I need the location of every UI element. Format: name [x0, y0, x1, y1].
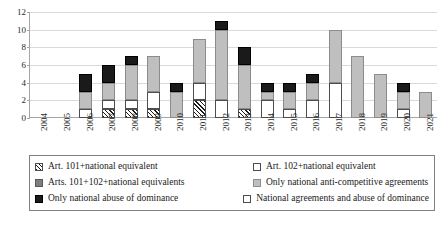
- stacked-bar[interactable]: [193, 39, 206, 118]
- bar-segment-national_abuse[interactable]: [102, 65, 115, 83]
- x-tick-label: 2019: [380, 113, 389, 131]
- bar-segment-national_abuse[interactable]: [79, 74, 92, 92]
- bar-segment-art102[interactable]: [102, 100, 115, 109]
- legend-swatch-icon: [253, 179, 261, 187]
- bar-segment-national_abuse[interactable]: [283, 83, 296, 92]
- bar-segment-national_agreements[interactable]: [215, 30, 228, 101]
- bar-segment-national_agreements[interactable]: [79, 92, 92, 110]
- bar-segment-art102[interactable]: [147, 92, 160, 110]
- bar-slot: [414, 12, 437, 118]
- x-tick-label: 2010: [176, 113, 185, 131]
- bar-segment-national_agreements[interactable]: [261, 92, 274, 101]
- y-tick-label: 2: [22, 96, 27, 105]
- x-tick-label: 2012: [222, 113, 231, 131]
- bar-segment-national_agreements[interactable]: [351, 56, 364, 118]
- x-tick-slot: 2017: [324, 119, 347, 150]
- x-tick-slot: 2011: [188, 119, 211, 150]
- legend-swatch-icon: [35, 163, 43, 171]
- legend-swatch-icon: [243, 195, 251, 203]
- bar-series-container: [29, 12, 437, 118]
- bar-segment-national_agreements[interactable]: [125, 65, 138, 100]
- y-tick-label: 0: [22, 114, 27, 123]
- x-tick-label: 2016: [312, 113, 321, 131]
- x-tick-label: 2007: [108, 113, 117, 131]
- bar-segment-art102[interactable]: [193, 83, 206, 101]
- bar-segment-national_abuse[interactable]: [261, 83, 274, 92]
- bar-segment-national_agreements[interactable]: [306, 83, 319, 101]
- legend-item-art101[interactable]: Art. 101+national equivalent: [35, 162, 253, 172]
- stacked-bar[interactable]: [215, 21, 228, 118]
- stacked-bar[interactable]: [102, 65, 115, 118]
- bar-slot: [29, 12, 52, 118]
- bar-segment-national_abuse[interactable]: [306, 74, 319, 83]
- bar-slot: [142, 12, 165, 118]
- legend-swatch-icon: [35, 195, 43, 203]
- legend-item-arts101_102[interactable]: Arts. 101+102+national equivalents: [35, 178, 253, 188]
- legend-row: Art. 101+national equivalentArt. 102+nat…: [35, 159, 429, 175]
- x-tick-slot: 2008: [120, 119, 143, 150]
- x-tick-label: 2014: [267, 113, 276, 131]
- chart-legend: Art. 101+national equivalentArt. 102+nat…: [29, 155, 435, 211]
- y-axis: 024681012: [4, 12, 26, 118]
- legend-label: Only national abuse of dominance: [48, 194, 178, 204]
- legend-swatch-icon: [35, 179, 43, 187]
- y-tick-label: 8: [22, 43, 27, 52]
- bar-slot: [278, 12, 301, 118]
- bar-slot: [301, 12, 324, 118]
- legend-item-national_agreements[interactable]: Only national anti-competitive agreement…: [253, 178, 429, 188]
- bar-slot: [210, 12, 233, 118]
- bar-slot: [97, 12, 120, 118]
- stacked-bar[interactable]: [79, 74, 92, 118]
- bar-segment-national_abuse[interactable]: [170, 83, 183, 92]
- bar-slot: [346, 12, 369, 118]
- legend-label: Art. 101+national equivalent: [48, 162, 158, 172]
- bar-segment-national_agreements[interactable]: [147, 56, 160, 91]
- x-tick-slot: 2020: [392, 119, 415, 150]
- x-tick-slot: 2005: [52, 119, 75, 150]
- bar-slot: [52, 12, 75, 118]
- bar-slot: [120, 12, 143, 118]
- x-tick-slot: 2016: [301, 119, 324, 150]
- stacked-bar[interactable]: [351, 56, 364, 118]
- x-tick-label: 2006: [86, 113, 95, 131]
- legend-row: Only national abuse of dominanceNational…: [35, 191, 429, 207]
- x-tick-slot: 2013: [233, 119, 256, 150]
- legend-label: National agreements and abuse of dominan…: [256, 194, 429, 204]
- bar-segment-national_agreements[interactable]: [283, 92, 296, 110]
- bar-segment-national_abuse[interactable]: [125, 56, 138, 65]
- bar-segment-national_agreements[interactable]: [397, 92, 410, 110]
- bar-slot: [256, 12, 279, 118]
- y-tick-label: 10: [17, 25, 26, 34]
- bar-segment-national_abuse[interactable]: [397, 83, 410, 92]
- x-tick-slot: 2015: [278, 119, 301, 150]
- x-axis: 2004200520062007200820092010201120122013…: [29, 119, 437, 150]
- x-tick-slot: 2004: [29, 119, 52, 150]
- bar-segment-national_agreements[interactable]: [329, 30, 342, 83]
- stacked-bar[interactable]: [125, 56, 138, 118]
- legend-item-national_abuse[interactable]: Only national abuse of dominance: [35, 194, 243, 204]
- bar-segment-national_agreements[interactable]: [238, 65, 251, 109]
- bar-segment-national_abuse[interactable]: [215, 21, 228, 30]
- stacked-bar[interactable]: [306, 74, 319, 118]
- chart-figure: 024681012 200420052006200720082009201020…: [0, 0, 442, 226]
- bar-segment-national_agreements[interactable]: [374, 74, 387, 118]
- x-tick-label: 2015: [290, 113, 299, 131]
- bar-slot: [165, 12, 188, 118]
- x-tick-label: 2005: [63, 113, 72, 131]
- bar-slot: [369, 12, 392, 118]
- bar-segment-national_agreements[interactable]: [102, 83, 115, 101]
- bar-segment-national_agreements[interactable]: [193, 39, 206, 83]
- y-tick-label: 4: [22, 78, 27, 87]
- bar-slot: [188, 12, 211, 118]
- x-tick-label: 2011: [199, 113, 208, 131]
- legend-item-art102[interactable]: Art. 102+national equivalent: [253, 162, 429, 172]
- bar-segment-art102[interactable]: [125, 100, 138, 109]
- stacked-bar[interactable]: [238, 47, 251, 118]
- legend-item-national_both[interactable]: National agreements and abuse of dominan…: [243, 194, 429, 204]
- legend-row: Arts. 101+102+national equivalentsOnly n…: [35, 175, 429, 191]
- legend-label: Only national anti-competitive agreement…: [266, 178, 428, 188]
- stacked-bar[interactable]: [374, 74, 387, 118]
- stacked-bar[interactable]: [147, 56, 160, 118]
- stacked-bar[interactable]: [329, 30, 342, 118]
- bar-segment-national_abuse[interactable]: [238, 47, 251, 65]
